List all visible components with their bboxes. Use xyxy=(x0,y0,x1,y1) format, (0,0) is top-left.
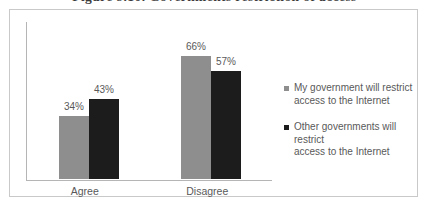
x-axis-labels: Agree Disagree xyxy=(27,185,272,197)
bar-wrap-agree-series1: 43% xyxy=(89,22,119,179)
bars-layer: 34% 43% 66% 57% xyxy=(28,22,272,179)
legend-item-my-government[interactable]: My government will restrict access to th… xyxy=(284,82,414,107)
legend-label: My government will restrict access to th… xyxy=(294,82,412,107)
bar-disagree-my-government[interactable] xyxy=(181,56,211,179)
legend-label-line2: access to the Internet xyxy=(294,146,390,157)
legend-swatch-icon xyxy=(284,86,289,91)
bar-agree-other-governments[interactable] xyxy=(89,99,119,179)
bar-group-disagree: 66% 57% xyxy=(181,22,241,179)
legend-label-line1: Other governments will restrict xyxy=(294,121,396,145)
bar-agree-my-government[interactable] xyxy=(59,116,89,179)
legend-label-line2: access to the Internet xyxy=(294,95,390,106)
legend-item-other-governments[interactable]: Other governments will restrict access t… xyxy=(284,121,414,159)
x-tick-label-agree: Agree xyxy=(71,185,99,197)
page-title: Figure 9.10. Governments restriction of … xyxy=(0,0,429,5)
bar-value-label: 57% xyxy=(205,56,247,67)
legend-label-line1: My government will restrict xyxy=(294,82,412,93)
bar-wrap-disagree-series0: 66% xyxy=(181,22,211,179)
legend-label: Other governments will restrict access t… xyxy=(294,121,414,159)
legend-swatch-icon xyxy=(284,125,289,130)
bar-value-label: 43% xyxy=(83,84,125,95)
bar-disagree-other-governments[interactable] xyxy=(211,71,241,179)
bar-wrap-agree-series0: 34% xyxy=(59,22,89,179)
x-tick-label-disagree: Disagree xyxy=(186,185,228,197)
plot-area: 34% 43% 66% 57% xyxy=(26,22,272,181)
legend: My government will restrict access to th… xyxy=(284,82,414,173)
chart-frame: 34% 43% 66% 57% A xyxy=(9,9,418,197)
bar-group-agree: 34% 43% xyxy=(59,22,119,179)
bar-wrap-disagree-series1: 57% xyxy=(211,22,241,179)
